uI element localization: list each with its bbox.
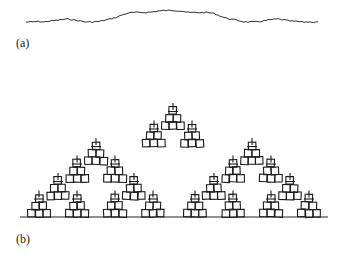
fractal-curve-panel-a xyxy=(26,10,318,23)
fractal-triangle-panel-b xyxy=(27,103,320,218)
panel-label-b: (b) xyxy=(16,232,30,247)
figure-canvas xyxy=(0,0,342,263)
panel-label-a: (a) xyxy=(16,36,29,51)
